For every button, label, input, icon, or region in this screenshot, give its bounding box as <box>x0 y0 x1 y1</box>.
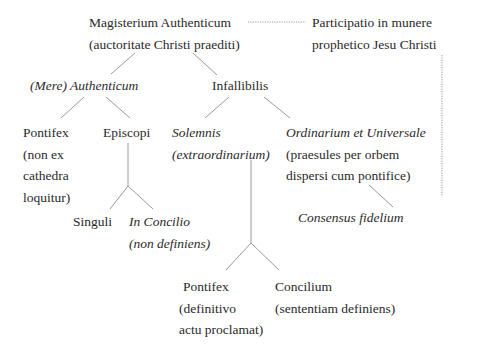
node-participatio: Participatio in munere prophetico Jesu C… <box>312 12 437 55</box>
node-pontifex-definitivo-line2: (definitivo <box>179 298 263 320</box>
node-ordinarium-line1: Ordinarium et Universale <box>286 122 426 144</box>
node-pontifex-non-ex-line1: Pontifex <box>23 122 70 144</box>
node-infallibilis: Infallibilis <box>212 75 268 97</box>
node-in-concilio: In Concilio (non definiens) <box>129 211 210 254</box>
node-singuli-label: Singuli <box>73 211 112 233</box>
node-concilium: Concilium (sententiam definiens) <box>275 276 395 319</box>
node-pontifex-non-ex-line3: cathedra <box>23 165 70 187</box>
node-ordinarium-line2: (praesules per orbem <box>286 144 426 166</box>
node-magisterium-title: Magisterium Authenticum <box>89 12 240 34</box>
node-concilium-line2: (sententiam definiens) <box>275 298 395 320</box>
node-infallibilis-label: Infallibilis <box>212 75 268 97</box>
edge-mere-episcopi <box>106 97 130 118</box>
edge-ordinarium-consensus <box>369 185 393 207</box>
edge-episcopi-singuli <box>110 186 128 209</box>
edge-infallibilis-ordinarium <box>264 97 290 118</box>
node-magisterium: Magisterium Authenticum (auctoritate Chr… <box>89 12 240 55</box>
edge-episcopi-concilio <box>128 186 153 209</box>
edge-magisterium-mere <box>111 53 135 74</box>
node-participatio-line2: prophetico Jesu Christi <box>312 34 437 56</box>
edge-solemnis-pontifex <box>226 243 251 270</box>
node-pontifex-non-ex-line4: loquitur) <box>23 187 70 209</box>
edge-solemnis-concilium <box>251 243 279 270</box>
node-magisterium-subtitle: (auctoritate Christi praediti) <box>89 34 240 56</box>
node-pontifex-definitivo-line1: Pontifex <box>179 276 263 298</box>
node-episcopi: Episcopi <box>103 122 150 144</box>
node-mere-authenticum: (Mere) Authenticum <box>30 75 138 97</box>
edge-magisterium-infallibilis <box>193 53 217 75</box>
edge-mere-pontifex <box>61 97 84 118</box>
node-consensus-label: Consensus fidelium <box>298 207 403 229</box>
node-pontifex-definitivo: Pontifex (definitivo actu proclamat) <box>179 276 263 341</box>
node-solemnis-line2: (extraordinarium) <box>172 144 270 166</box>
node-in-concilio-line2: (non definiens) <box>129 233 210 255</box>
node-participatio-line1: Participatio in munere <box>312 12 437 34</box>
node-singuli: Singuli <box>73 211 112 233</box>
node-pontifex-definitivo-line3: actu proclamat) <box>179 319 263 341</box>
node-ordinarium: Ordinarium et Universale (praesules per … <box>286 122 426 187</box>
node-solemnis-line1: Solemnis <box>172 122 270 144</box>
node-concilium-line1: Concilium <box>275 276 395 298</box>
node-solemnis: Solemnis (extraordinarium) <box>172 122 270 165</box>
node-pontifex-non-ex-line2: (non ex <box>23 144 70 166</box>
edge-infallibilis-solemnis <box>205 97 229 118</box>
node-consensus: Consensus fidelium <box>298 207 403 229</box>
node-mere-authenticum-label: (Mere) Authenticum <box>30 75 138 97</box>
node-in-concilio-line1: In Concilio <box>129 211 210 233</box>
node-ordinarium-line3: dispersi cum pontifice) <box>286 165 426 187</box>
node-pontifex-non-ex: Pontifex (non ex cathedra loquitur) <box>23 122 70 208</box>
node-episcopi-label: Episcopi <box>103 122 150 144</box>
